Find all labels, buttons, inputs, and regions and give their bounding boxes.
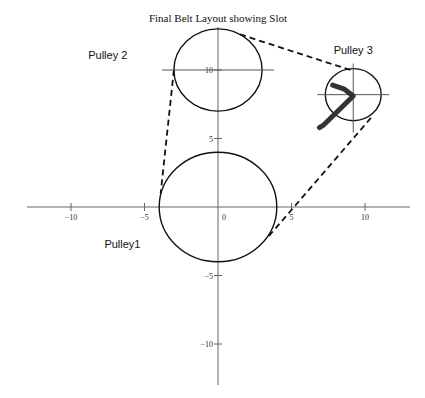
belt-segment (268, 118, 371, 237)
x-tick-label: 0 (222, 213, 226, 222)
belt-segment (161, 70, 174, 193)
pulley-label: Pulley 2 (88, 49, 127, 61)
x-tick-label: 10 (361, 213, 369, 222)
chart-title: Final Belt Layout showing Slot (149, 12, 287, 24)
y-tick-label: 5 (209, 135, 213, 144)
pulley-label: Pulley 3 (334, 44, 373, 56)
belt-layout-diagram: Final Belt Layout showing Slot −10−50510… (0, 0, 425, 398)
pulley-label: Pulley1 (104, 238, 140, 250)
slot (319, 85, 353, 127)
y-tick-label: −5 (204, 272, 213, 281)
x-tick-label: −10 (65, 213, 78, 222)
y-tick-label: −10 (200, 340, 213, 349)
slot-path (319, 85, 353, 127)
x-tick-label: −5 (140, 213, 149, 222)
pulley-labels: Pulley1Pulley 2Pulley 3 (88, 44, 373, 251)
x-tick-label: 5 (290, 213, 294, 222)
pulleys (159, 29, 389, 262)
axes (27, 27, 410, 385)
